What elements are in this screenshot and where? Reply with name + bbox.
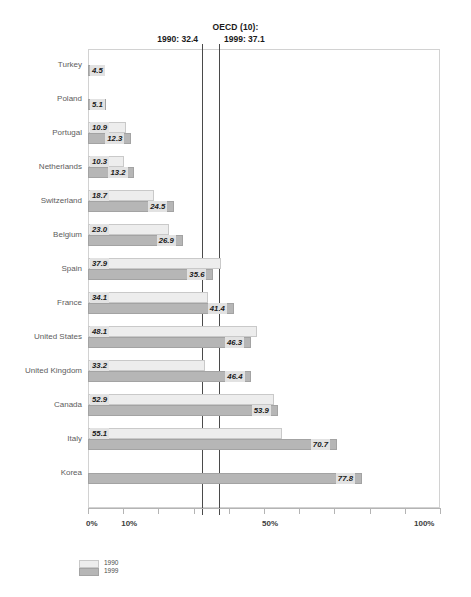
bar-value-label-1990: 33.2 (90, 360, 109, 371)
oecd-reference-label-1990: 1990: 32.4 (118, 34, 198, 44)
oecd-reference-label-1999: 1999: 37.1 (224, 34, 314, 44)
row-bars: 77.8 (88, 457, 440, 491)
bar-rows: Turkey4.5Poland5.1Portugal10.912.3Nether… (0, 49, 471, 508)
bar-value-label-1990: 34.1 (90, 292, 109, 303)
bar-row: Poland5.1 (0, 83, 471, 117)
category-label: Netherlands (0, 162, 82, 171)
x-axis (88, 508, 440, 516)
bar-row: Belgium23.026.9 (0, 219, 471, 253)
x-axis-tick (299, 508, 300, 514)
bar-row: Turkey4.5 (0, 49, 471, 83)
legend-swatch (79, 560, 99, 568)
bar-row: United Kingdom33.246.4 (0, 355, 471, 389)
legend-label: 1990 (104, 559, 118, 566)
row-bars: 10.912.3 (88, 117, 440, 151)
bar-value-label-1990: 55.1 (90, 428, 109, 439)
category-label: Poland (0, 94, 82, 103)
x-axis-tick (334, 508, 335, 514)
bar-value-label-1990: 10.3 (90, 156, 109, 167)
bar-row: Korea77.8 (0, 457, 471, 491)
row-bars: 4.5 (88, 49, 440, 83)
x-axis-tick-label: 10% (121, 519, 137, 528)
bar-row: France34.141.4 (0, 287, 471, 321)
x-axis-tick (405, 508, 406, 514)
bar-value-label-1999: 26.9 (157, 235, 176, 246)
legend-item: 1990 (79, 560, 199, 568)
x-axis-tick-label: 0% (86, 519, 98, 528)
bar-row: Netherlands10.313.2 (0, 151, 471, 185)
bar-row: United States48.146.3 (0, 321, 471, 355)
row-bars: 37.935.6 (88, 253, 440, 287)
chart-legend: 19901999 (79, 560, 199, 582)
bar-value-label-1990: 10.9 (90, 122, 109, 133)
bar-value-label-1999: 77.8 (336, 473, 355, 484)
oecd-reference-header: OECD (10): 1990: 32.4 1999: 37.1 (0, 22, 471, 50)
bar-row: Switzerland18.724.5 (0, 185, 471, 219)
row-bars: 23.026.9 (88, 219, 440, 253)
legend-swatch (79, 568, 99, 576)
bar-1990[interactable] (88, 394, 274, 405)
bar-1999[interactable] (88, 473, 362, 484)
category-label: Portugal (0, 128, 82, 137)
x-axis-tick (88, 508, 89, 514)
bar-value-label-1999: 41.4 (208, 303, 227, 314)
bar-value-label-1999: 35.6 (187, 269, 206, 280)
bar-value-label-1990: 52.9 (90, 394, 109, 405)
bar-value-label-1999: 46.3 (225, 337, 244, 348)
oecd-title: OECD (10): (0, 22, 471, 32)
category-label: Spain (0, 264, 82, 273)
bar-row: Canada52.953.9 (0, 389, 471, 423)
x-axis-tick (158, 508, 159, 514)
x-axis-tick-label: 100% (414, 519, 434, 528)
bar-1999[interactable] (88, 439, 337, 450)
row-bars: 55.170.7 (88, 423, 440, 457)
category-label: Italy (0, 434, 82, 443)
bar-value-label-1990: 37.9 (90, 258, 109, 269)
bar-value-label-1999: 70.7 (311, 439, 330, 450)
bar-value-label-1990: 48.1 (90, 326, 109, 337)
category-label: Belgium (0, 230, 82, 239)
category-label: United States (0, 332, 82, 341)
x-axis-tick (194, 508, 195, 514)
x-axis-tick-label: 50% (262, 519, 278, 528)
category-label: Korea (0, 468, 82, 477)
bar-value-label-1999: 46.4 (225, 371, 244, 382)
category-label: Turkey (0, 60, 82, 69)
category-label: France (0, 298, 82, 307)
bar-value-label-1999: 12.3 (105, 133, 124, 144)
bar-row: Portugal10.912.3 (0, 117, 471, 151)
x-axis-tick (264, 508, 265, 514)
bar-value-label-1990: 18.7 (90, 190, 109, 201)
x-axis-tick (229, 508, 230, 514)
x-axis-tick (440, 508, 441, 514)
bar-value-label-1999: 24.5 (148, 201, 167, 212)
row-bars: 34.141.4 (88, 287, 440, 321)
x-axis-tick (123, 508, 124, 514)
row-bars: 33.246.4 (88, 355, 440, 389)
category-label: Canada (0, 400, 82, 409)
row-bars: 10.313.2 (88, 151, 440, 185)
bar-1990[interactable] (88, 428, 282, 439)
category-label: Switzerland (0, 196, 82, 205)
bar-value-label-1999: 5.1 (90, 99, 105, 110)
row-bars: 48.146.3 (88, 321, 440, 355)
category-label: United Kingdom (0, 366, 82, 375)
bar-value-label-1999: 4.5 (90, 65, 105, 76)
bar-value-label-1999: 13.2 (108, 167, 127, 178)
x-axis-tick (370, 508, 371, 514)
legend-label: 1999 (104, 567, 118, 574)
row-bars: 18.724.5 (88, 185, 440, 219)
row-bars: 52.953.9 (88, 389, 440, 423)
bar-value-label-1999: 53.9 (252, 405, 271, 416)
bar-row: Spain37.935.6 (0, 253, 471, 287)
row-bars: 5.1 (88, 83, 440, 117)
bar-1990[interactable] (88, 326, 257, 337)
bar-1999[interactable] (88, 405, 278, 416)
legend-item: 1999 (79, 568, 199, 576)
bar-value-label-1990: 23.0 (90, 224, 109, 235)
bar-row: Italy55.170.7 (0, 423, 471, 457)
